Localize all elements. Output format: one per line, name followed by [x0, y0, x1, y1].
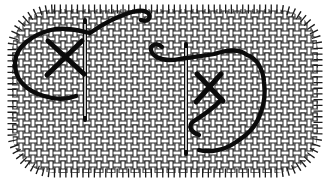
fabric-weave: [12, 9, 318, 173]
embroidery-illustration: Engraved needlework illustration: two cr…: [0, 0, 329, 183]
canvas-fabric: [12, 9, 318, 173]
illustration-canvas: Engraved needlework illustration: two cr…: [0, 0, 329, 183]
